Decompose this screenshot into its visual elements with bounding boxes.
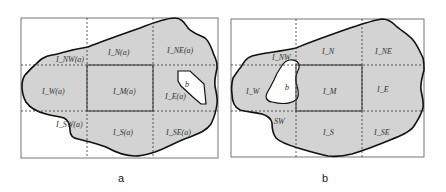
panel-b-label-n: I_N: [321, 47, 335, 56]
panel-b-label-m: I_M: [322, 87, 338, 96]
panel-a-label-sw: I_SW(a): [55, 120, 83, 129]
panel-a-label-m: I_M(a): [112, 87, 136, 96]
panel-b-label-ne: I_NE: [374, 47, 392, 56]
diagram-canvas: I_NW(a) I_N(a) I_NE(a) I_W(a) I_M(a) I_E…: [0, 0, 446, 192]
panel-a-label-w: I_W(a): [41, 87, 65, 96]
panel-a-label-e: I_E(a): [164, 92, 186, 101]
panel-b-hole-label: b: [285, 83, 289, 92]
panel-a-label-s: I_S(a): [112, 128, 133, 137]
panel-b-label-e: I_E: [376, 85, 389, 94]
panel-b-caption: b: [322, 172, 328, 184]
panel-b-label-sw: SW: [274, 117, 286, 126]
panel-a-label-nw: I_NW(a): [55, 55, 84, 64]
panel-b-label-w: I_W: [245, 87, 261, 96]
panel-b-label-s: I_S: [322, 128, 334, 137]
panel-a-hole-label: b: [185, 80, 189, 89]
panel-a: I_NW(a) I_N(a) I_NE(a) I_W(a) I_M(a) I_E…: [21, 18, 218, 184]
panel-b: I_NW I_N I_NE I_W I_M I_E SW I_S I_SE b …: [231, 19, 424, 184]
panel-a-caption: a: [118, 172, 125, 184]
panel-b-label-se: I_SE: [373, 128, 390, 137]
panel-b-label-nw: I_NW: [271, 53, 292, 62]
panel-a-label-n: I_N(a): [107, 48, 130, 57]
panel-a-label-ne: I_NE(a): [166, 46, 194, 55]
panel-a-label-se: I_SE(a): [165, 128, 191, 137]
